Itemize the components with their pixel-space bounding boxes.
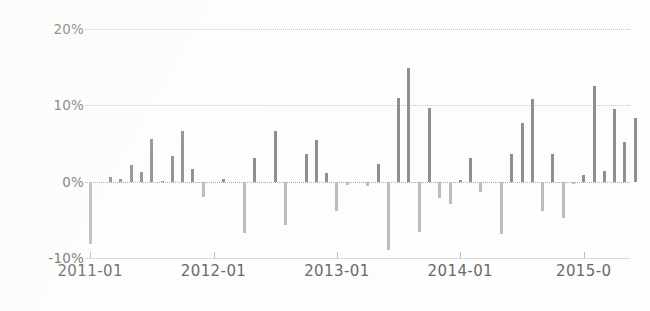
bar bbox=[274, 131, 277, 182]
x-tick-label: 2013-01 bbox=[304, 262, 369, 280]
x-tick-label: 2012-01 bbox=[181, 262, 246, 280]
bar bbox=[469, 158, 472, 182]
bar bbox=[593, 86, 596, 181]
bar bbox=[181, 131, 184, 182]
bar bbox=[335, 182, 338, 212]
bar bbox=[582, 175, 585, 182]
bar bbox=[89, 182, 92, 245]
bar bbox=[634, 118, 637, 182]
bar bbox=[263, 182, 266, 184]
bar bbox=[500, 182, 503, 235]
bar bbox=[243, 182, 246, 233]
bar bbox=[407, 68, 410, 182]
gridline-20 bbox=[85, 29, 630, 30]
bar bbox=[109, 177, 112, 182]
y-tick-label: 0% bbox=[14, 174, 84, 190]
x-tick-mark bbox=[584, 252, 585, 258]
y-tick-label: 20% bbox=[14, 21, 84, 37]
bar bbox=[418, 182, 421, 232]
bar bbox=[150, 139, 153, 182]
bar bbox=[140, 172, 143, 182]
bar bbox=[119, 179, 122, 181]
bar bbox=[222, 179, 225, 182]
bar bbox=[479, 182, 482, 192]
bar bbox=[366, 182, 369, 187]
bar bbox=[613, 109, 616, 182]
bar bbox=[377, 164, 380, 182]
x-tick-mark bbox=[460, 252, 461, 258]
bar bbox=[315, 140, 318, 181]
bar bbox=[171, 156, 174, 182]
gridline--10 bbox=[85, 258, 630, 259]
bar bbox=[284, 182, 287, 226]
bar bbox=[130, 165, 133, 182]
x-tick-mark bbox=[337, 252, 338, 258]
gridline-0 bbox=[85, 182, 630, 183]
bar bbox=[541, 182, 544, 212]
bar bbox=[510, 154, 513, 181]
x-tick-label: 2011-01 bbox=[57, 262, 122, 280]
x-tick-label: 2014-01 bbox=[428, 262, 493, 280]
bar bbox=[325, 173, 328, 181]
bar bbox=[202, 182, 205, 197]
bar bbox=[562, 182, 565, 218]
x-tick-mark bbox=[214, 252, 215, 258]
bar bbox=[161, 181, 164, 182]
bar bbox=[346, 182, 349, 185]
bar bbox=[253, 158, 256, 182]
bar bbox=[387, 182, 390, 250]
bar bbox=[459, 180, 462, 182]
bar bbox=[449, 182, 452, 204]
bar bbox=[428, 108, 431, 182]
bar bbox=[623, 142, 626, 182]
bar bbox=[305, 154, 308, 181]
gridline-10 bbox=[85, 105, 630, 106]
y-tick-label: 10% bbox=[14, 97, 84, 113]
x-tick-mark bbox=[90, 252, 91, 258]
bar bbox=[191, 169, 194, 181]
chart-container: 20%10%0%-10% 2011-012012-012013-012014-0… bbox=[0, 0, 650, 311]
x-tick-label: 2015-0 bbox=[556, 262, 612, 280]
bar bbox=[603, 171, 606, 182]
bar bbox=[521, 123, 524, 182]
plot-area bbox=[85, 29, 630, 258]
bar bbox=[397, 98, 400, 181]
bar bbox=[531, 99, 534, 181]
bar bbox=[572, 182, 575, 184]
bar bbox=[551, 154, 554, 181]
bar bbox=[438, 182, 441, 199]
